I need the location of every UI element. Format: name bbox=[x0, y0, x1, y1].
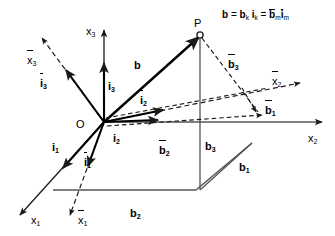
diagram-svg bbox=[0, 0, 335, 236]
unit-vector-label-i3bar: i3 bbox=[40, 74, 47, 90]
component-label-b3: b3 bbox=[205, 137, 216, 153]
formula-vector-decomposition: b = bk ik = bmim bbox=[222, 9, 289, 20]
formula-term2-unit-sub: m bbox=[283, 14, 288, 21]
axis-label-x2: x2 bbox=[308, 129, 317, 145]
point-label-O: O bbox=[76, 115, 85, 131]
component-label-b2bar: b2 bbox=[159, 141, 170, 157]
component-label-b3bar: b3 bbox=[228, 55, 239, 71]
unit-vector-i3bar-arrow bbox=[66, 70, 104, 122]
axis-label-x1: x1 bbox=[31, 211, 40, 227]
unit-vector-label-i3: i3 bbox=[108, 77, 115, 93]
axis-label-x3: x3 bbox=[86, 22, 95, 38]
formula-term1-unit-sub: k bbox=[254, 14, 257, 21]
unit-vector-label-i2bar: i2 bbox=[140, 91, 147, 107]
figure-canvas: x3 x2 x1 x3 x2 x1 O P i3 i2 i1 i3 bbox=[0, 0, 335, 236]
axis-label-x1bar: x1 bbox=[78, 211, 87, 227]
unit-vector-label-i2: i2 bbox=[113, 129, 120, 145]
axis-label-x2bar: x2 bbox=[272, 72, 281, 88]
point-P-marker bbox=[197, 32, 203, 38]
point-label-P: P bbox=[194, 14, 201, 30]
vector-label-b: b bbox=[134, 56, 141, 72]
formula-lhs: b bbox=[222, 9, 228, 20]
component-label-b1bar: b1 bbox=[265, 101, 276, 117]
formula-eq2: = bbox=[260, 9, 266, 20]
formula-term1-coef: b bbox=[240, 9, 246, 20]
formula-eq1: = bbox=[231, 9, 237, 20]
base-parallelogram bbox=[53, 143, 252, 190]
component-label-b2: b2 bbox=[130, 204, 141, 220]
unit-vector-label-i1: i1 bbox=[52, 138, 59, 154]
unit-vector-label-i1bar: i1 bbox=[84, 153, 91, 169]
axis-label-x3bar: x3 bbox=[27, 51, 36, 67]
component-helper-dashed-upper bbox=[106, 88, 268, 118]
formula-term1-coef-sub: k bbox=[246, 14, 249, 21]
component-label-b1: b1 bbox=[239, 158, 250, 174]
